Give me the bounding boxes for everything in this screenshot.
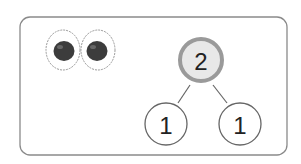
whole-circle: 2 [180,39,222,81]
tomato-icon [81,30,115,70]
part-value-left: 1 [159,112,172,139]
part-circle-left: 1 [145,103,187,145]
whole-value: 2 [194,48,207,75]
part-circle-right: 1 [219,103,261,145]
part-value-right: 1 [233,112,246,139]
number-bond-card: 2 1 1 [0,0,301,164]
tomato-icon [46,30,80,70]
